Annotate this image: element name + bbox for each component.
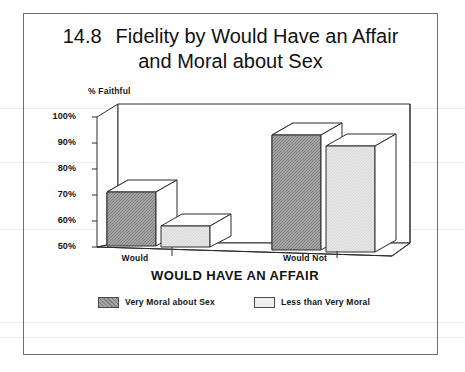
x-category-label-would: Would <box>100 253 170 263</box>
bar-chart-3d <box>0 0 465 372</box>
legend-swatch-icon <box>98 297 119 308</box>
legend-swatch-icon <box>254 297 275 308</box>
x-category-label-would-not: Would Not <box>265 253 345 263</box>
legend-item-very-moral: Very Moral about Sex <box>98 294 215 310</box>
x-axis-title: WOULD HAVE AN AFFAIR <box>105 268 365 283</box>
figure-page: 14.8Fidelity by Would Have an Affair and… <box>0 0 465 372</box>
legend-label: Very Moral about Sex <box>125 297 215 307</box>
legend-label: Less than Very Moral <box>281 297 370 307</box>
bar-would-not-less-than-very-moral <box>326 134 396 252</box>
legend-item-less-than-very-moral: Less than Very Moral <box>254 294 370 310</box>
chart-legend: Very Moral about Sex Less than Very Mora… <box>98 294 388 314</box>
